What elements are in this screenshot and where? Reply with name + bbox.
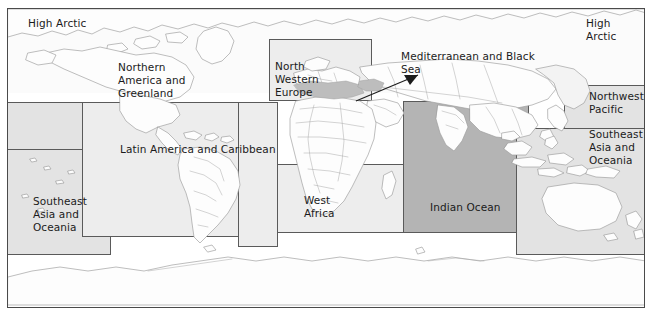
label-southeast-asia-and-oceania-east: Southeast Asia and Oceania xyxy=(589,128,643,167)
label-high-arctic-left: High Arctic xyxy=(28,17,86,30)
region-west-africa[interactable] xyxy=(277,164,404,233)
map-frame: High Arctic High Arctic Northern America… xyxy=(7,8,645,308)
label-high-arctic-right: High Arctic xyxy=(586,17,644,43)
label-latin-america-and-caribbean: Latin America and Caribbean xyxy=(120,143,276,156)
label-mediterranean-and-black-sea: Mediterranean and Black Sea xyxy=(401,50,535,76)
world-regions-map: High Arctic High Arctic Northern America… xyxy=(0,0,653,316)
region-latin-america-caribbean-ext[interactable] xyxy=(238,102,278,247)
label-west-africa: West Africa xyxy=(304,194,335,220)
label-indian-ocean: Indian Ocean xyxy=(430,201,501,214)
label-northwest-pacific: Northwest Pacific xyxy=(589,90,644,116)
label-north-western-europe: North Western Europe xyxy=(275,60,319,99)
label-southeast-asia-and-oceania-west: Southeast Asia and Oceania xyxy=(33,195,87,234)
label-northern-america-and-greenland: Northern America and Greenland xyxy=(118,61,186,100)
